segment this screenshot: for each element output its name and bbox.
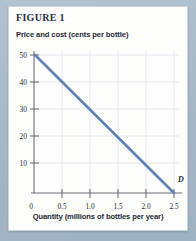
x-tick-label-0-5: 0.5 xyxy=(57,202,67,211)
y-tick-label-50: 50 xyxy=(20,51,28,60)
y-tick-label-20: 20 xyxy=(20,132,28,141)
y-tick-label-10: 10 xyxy=(20,159,28,168)
x-tick-label-2-0: 2.0 xyxy=(141,202,151,211)
y-tick-label-30: 30 xyxy=(20,105,28,114)
x-tick-label-0: 0 xyxy=(29,202,33,211)
demand-curve-line xyxy=(35,55,174,193)
grid-vertical xyxy=(62,51,174,193)
y-tick-label-40: 40 xyxy=(20,78,28,87)
demand-curve-chart: 50 40 30 20 10 0 0.5 1.0 1.5 2.0 2.5 D xyxy=(9,7,189,232)
x-tick-label-1-5: 1.5 xyxy=(113,202,123,211)
grid-horizontal xyxy=(34,55,179,163)
figure-plate: FIGURE 1 Price and cost (cents per bottl… xyxy=(0,0,196,241)
demand-curve-label: D xyxy=(177,175,184,184)
plot-area: 50 40 30 20 10 0 0.5 1.0 1.5 2.0 2.5 D xyxy=(9,7,189,232)
figure-card: FIGURE 1 Price and cost (cents per bottl… xyxy=(8,6,188,231)
x-tick-label-2-5: 2.5 xyxy=(169,202,179,211)
x-axis-title: Quantity (millions of bottles per year) xyxy=(9,212,187,221)
x-tick-label-1-0: 1.0 xyxy=(85,202,95,211)
